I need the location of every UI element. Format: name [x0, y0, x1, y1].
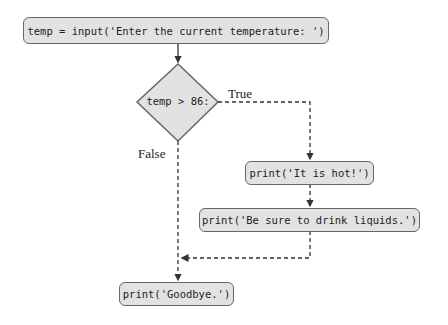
false-label: False [138, 146, 165, 162]
print-goodbye-box: print('Goodbye.') [119, 282, 234, 306]
connector-layer [0, 0, 448, 325]
true-label: True [228, 86, 252, 102]
print-liquids-box: print('Be sure to drink liquids.') [199, 208, 420, 232]
decision-condition: temp > 86: [137, 95, 219, 107]
print-hot-box: print('It is hot!') [245, 161, 374, 185]
return-line [182, 231, 310, 258]
input-statement-box: temp = input('Enter the current temperat… [23, 17, 329, 44]
true-branch-line [218, 102, 310, 159]
